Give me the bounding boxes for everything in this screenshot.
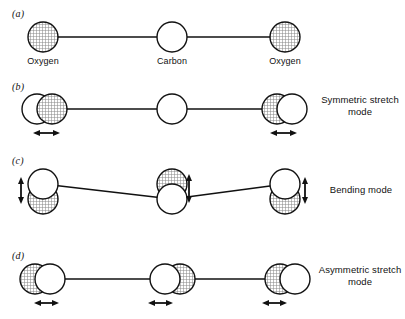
atom-oxygen-left-d (35, 264, 65, 294)
atom-oxygen-right-d (280, 264, 310, 294)
atom-label-oxygen-right: Oxygen (245, 56, 325, 66)
atom-oxygen-right-c (270, 169, 300, 199)
atom-oxygen-left-b (37, 94, 67, 124)
panel-label-a: (a) (12, 8, 24, 19)
atom-oxygen-left-c (28, 169, 58, 199)
panel-b (22, 94, 307, 136)
arrow-left-b (33, 130, 60, 136)
arrow-right-c (302, 177, 308, 204)
panel-label-c: (c) (12, 155, 24, 166)
mode-label-asymmetric-stretch: Asymmetric stretch mode (316, 264, 404, 288)
panel-a (28, 22, 300, 52)
panel-label-d: (d) (12, 250, 24, 261)
atom-oxygen-left-a (28, 22, 58, 52)
arrow-right-d (262, 300, 287, 306)
atom-carbon-c (157, 184, 187, 214)
mode-label-symmetric-stretch: Symmetric stretch mode (318, 94, 402, 118)
atom-label-carbon: Carbon (132, 56, 212, 66)
panel-c (18, 169, 308, 214)
atom-label-oxygen-left: Oxygen (3, 56, 83, 66)
panel-label-b: (b) (12, 81, 24, 92)
arrow-right-b (270, 130, 297, 136)
atom-carbon-a (157, 22, 187, 52)
arrow-center-d (148, 300, 173, 306)
mode-label-bending: Bending mode (318, 184, 404, 196)
bond-left-c (43, 184, 172, 199)
atom-oxygen-right-a (270, 22, 300, 52)
atom-oxygen-right-ghost-b (277, 94, 307, 124)
atom-carbon-d (150, 264, 180, 294)
atom-carbon-b (157, 94, 187, 124)
arrow-left-c (18, 177, 24, 204)
panel-d (20, 264, 310, 306)
arrow-left-d (34, 300, 59, 306)
